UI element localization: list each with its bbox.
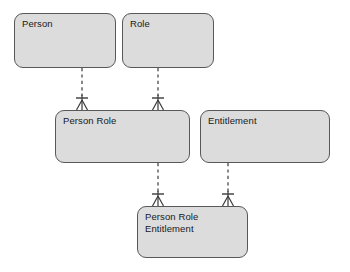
relationship-entitlement-to-person-role-entitlement [222,163,234,206]
entity-person-role-entitlement-label: Person Role Entitlement [145,211,198,234]
crows-foot-prong-left [223,196,229,206]
crows-foot-prong-left [153,196,159,206]
crows-foot-prong-right [82,100,88,110]
crows-foot-prong-right [158,196,164,206]
relationship-person-role-to-person-role-entitlement [152,163,164,206]
crows-foot-prong-right [158,100,164,110]
entity-person-role-entitlement[interactable]: Person Role Entitlement [137,206,248,258]
entity-person-label: Person [22,18,53,30]
entity-role[interactable]: Role [122,13,214,68]
entity-person[interactable]: Person [14,13,116,68]
entity-person-role-label: Person Role [63,115,116,127]
entity-entitlement[interactable]: Entitlement [200,110,330,163]
relationship-role-to-person-role [152,68,164,110]
er-diagram-canvas: Person Role Person Role Entitlement Pers… [0,0,350,272]
entity-entitlement-label: Entitlement [208,115,257,127]
entity-role-label: Role [130,18,150,30]
entity-person-role[interactable]: Person Role [55,110,190,163]
crows-foot-prong-right [228,196,234,206]
relationship-person-to-person-role [76,68,88,110]
crows-foot-prong-left [153,100,159,110]
crows-foot-prong-left [77,100,83,110]
